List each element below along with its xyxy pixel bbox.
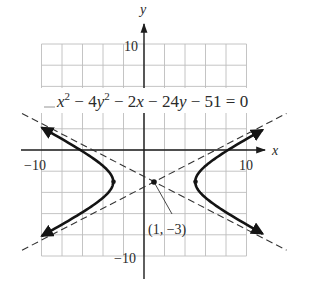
y-max-label: 10	[124, 39, 138, 54]
right-vertex-dot	[193, 180, 198, 185]
center-point-label: (1, −3)	[148, 222, 187, 238]
y-axis-label: y	[138, 2, 147, 17]
left-vertex-dot	[111, 180, 116, 185]
x-axis-label: x	[271, 143, 279, 158]
x-max-label: 10	[239, 158, 253, 173]
hyperbola-figure: x2 − 4y2 − 2x − 24y − 51 = 0 (1, −3) −10…	[0, 0, 311, 291]
equation-label: x2 − 4y2 − 2x − 24y − 51 = 0	[56, 90, 248, 111]
x-min-label: −10	[24, 158, 46, 173]
y-min-label: −10	[114, 251, 136, 266]
center-point-dot	[151, 179, 157, 185]
